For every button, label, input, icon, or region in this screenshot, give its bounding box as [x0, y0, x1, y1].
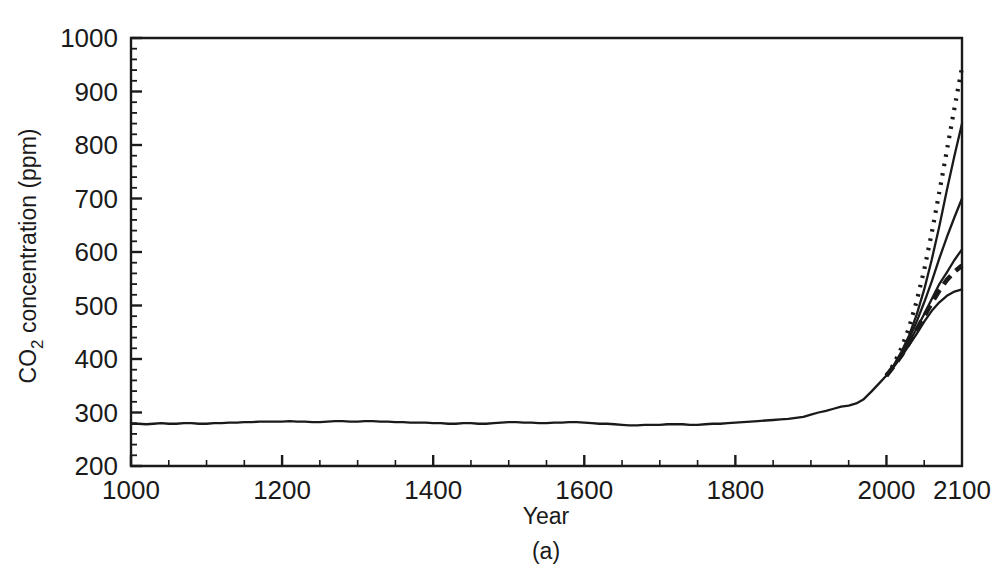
data-series-layer — [131, 67, 962, 425]
x-tick-label: 1400 — [404, 475, 462, 505]
x-tick-label: 1200 — [253, 475, 311, 505]
y-axis-tick-labels: 2003004005006007008009001000 — [60, 23, 118, 481]
panel-caption: (a) — [532, 538, 560, 564]
y-axis-title: CO2 concentration (ppm) — [15, 129, 47, 384]
x-tick-label: 2100 — [933, 475, 991, 505]
y-axis-title-prefix: CO — [15, 349, 41, 384]
x-tick-label: 1600 — [555, 475, 613, 505]
y-tick-label: 600 — [75, 237, 118, 267]
x-tick-label: 1800 — [706, 475, 764, 505]
svg-text:CO2 concentration (ppm): CO2 concentration (ppm) — [15, 129, 47, 384]
series-scenario-a2 — [886, 124, 962, 376]
y-axis-title-subscript: 2 — [28, 339, 47, 348]
y-tick-label: 300 — [75, 398, 118, 428]
y-tick-label: 400 — [75, 344, 118, 374]
x-axis-title: Year — [523, 503, 570, 529]
y-tick-label: 800 — [75, 130, 118, 160]
x-tick-label: 2000 — [858, 475, 916, 505]
x-tick-label: 1000 — [102, 475, 160, 505]
series-historical-record — [131, 376, 886, 426]
figure-panel-a: 2003004005006007008009001000 10001200140… — [0, 0, 1008, 584]
co2-concentration-chart: 2003004005006007008009001000 10001200140… — [0, 0, 1008, 584]
series-scenario-a1fi — [886, 67, 962, 375]
x-axis-tick-labels: 1000120014001600180020002100 — [102, 475, 991, 505]
y-tick-label: 700 — [75, 184, 118, 214]
faint-cropped-header — [360, 0, 690, 6]
y-tick-label: 1000 — [60, 23, 118, 53]
y-tick-label: 500 — [75, 291, 118, 321]
plot-frame — [131, 38, 962, 466]
y-axis-title-suffix: concentration (ppm) — [15, 129, 41, 340]
y-tick-label: 900 — [75, 77, 118, 107]
